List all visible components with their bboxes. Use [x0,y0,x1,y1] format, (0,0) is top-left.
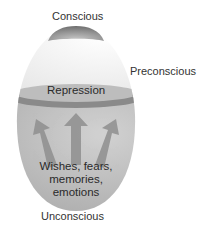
contents-line-1: Wishes, fears, [26,160,126,173]
unconscious-contents: Wishes, fears, memories, emotions [26,160,126,199]
preconscious-label: Preconscious [130,65,196,77]
conscious-label: Conscious [52,10,103,22]
conscious-cap [48,26,104,41]
repression-label: Repression [47,84,105,96]
unconscious-label: Unconscious [41,210,104,222]
contents-line-2: memories, [26,173,126,186]
contents-line-3: emotions [26,186,126,199]
